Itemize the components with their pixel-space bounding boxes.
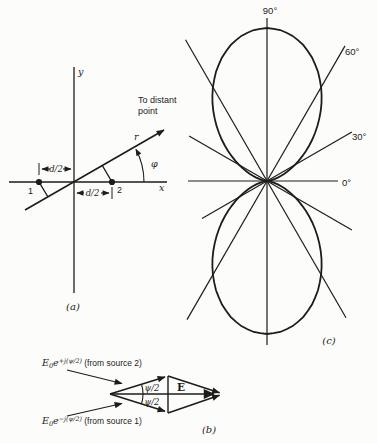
phi-label: φ	[151, 158, 158, 169]
phasor-top-formula: E0e+j(ψ/2) (from source 2)	[41, 357, 142, 371]
caption-b: (b)	[202, 424, 216, 435]
polar-gridline-150	[189, 136, 267, 181]
y-axis-label: y	[77, 66, 84, 77]
polar-gridline-240	[187, 181, 267, 320]
annotation-point: point	[138, 106, 158, 116]
phasor-diagram: ψ/2 ψ/2 E E0e+j(ψ/2) (from source 2) E0e…	[41, 357, 220, 436]
polar-gridline-210	[202, 181, 267, 219]
tick-label-30: 30°	[352, 131, 367, 142]
angle-lower-label: ψ/2	[145, 397, 160, 407]
polar-gridline-60	[267, 46, 345, 181]
polar-gridline-300	[267, 181, 346, 318]
phasor-bottom-formula: E0e−j(ψ/2) (from source 1)	[41, 415, 142, 429]
resultant-label: E	[177, 381, 185, 393]
phasor-top-to-resultant	[168, 376, 220, 393]
caption-c: (c)	[322, 335, 336, 346]
perpendicular-from-source-1	[39, 182, 48, 197]
tick-label-90: 90°	[263, 5, 278, 16]
spacing-label-left: d/2	[49, 164, 63, 174]
angle-upper-label: ψ/2	[145, 383, 160, 393]
x-axis-label: x	[159, 182, 165, 193]
polar-gridline-330	[267, 181, 352, 230]
tick-label-0: 0°	[342, 177, 351, 188]
figure-canvas: y x r To distant point φ 1 2 d/2 d/2 (a)…	[0, 0, 377, 443]
polar-gridline-30	[267, 132, 352, 181]
phi-angle-arc	[136, 149, 144, 182]
radiation-pattern-chart: 90° 60° 30° 0° (c)	[186, 5, 367, 346]
perpendicular-from-source-2	[102, 165, 112, 182]
source-1-label: 1	[28, 186, 33, 196]
caption-a: (a)	[66, 301, 80, 312]
source-2-label: 2	[117, 185, 122, 195]
tick-label-60: 60°	[345, 46, 360, 57]
two-source-geometry-diagram: y x r To distant point φ 1 2 d/2 d/2 (a)	[9, 66, 177, 312]
annotation-to-distant: To distant	[138, 95, 177, 105]
callout-arrow-source-2	[67, 370, 122, 384]
phasor-bottom-to-resultant	[168, 395, 220, 413]
ray-label: r	[134, 131, 140, 142]
spacing-label-right: d/2	[86, 188, 100, 198]
polar-gridline-120	[186, 40, 268, 181]
